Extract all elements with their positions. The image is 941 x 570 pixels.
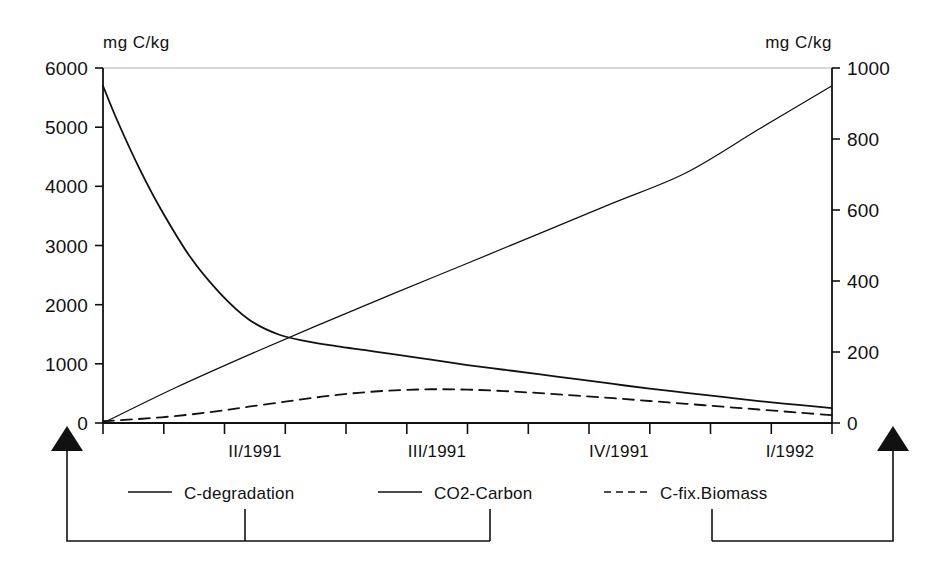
- xtick-label-q2-1991: II/1991: [228, 442, 281, 461]
- left-axis-unit-label: mg C/kg: [103, 33, 170, 52]
- right-axis-unit-label: mg C/kg: [765, 33, 832, 52]
- left-tick-label-2000: 2000: [45, 295, 88, 316]
- legend-item-co2-carbon[interactable]: CO2-Carbon: [378, 484, 532, 503]
- left-tick-label-6000: 6000: [45, 58, 88, 79]
- right-tick-label-1000: 1000: [847, 58, 890, 79]
- arrow-up-right-icon: [877, 426, 909, 451]
- right-tick-label-600: 600: [847, 200, 879, 221]
- left-tick-label-5000: 5000: [45, 117, 88, 138]
- xtick-label-q1-1992: I/1992: [766, 442, 814, 461]
- series-line-c-fix-biomass: [103, 389, 832, 421]
- left-tick-label-1000: 1000: [45, 354, 88, 375]
- left-tick-label-4000: 4000: [45, 176, 88, 197]
- series-line-c-degradation-main: [103, 86, 832, 408]
- left-tick-label-0: 0: [77, 413, 88, 434]
- legend-item-c-degradation[interactable]: C-degradation: [128, 484, 294, 503]
- series-line-co2-carbon: [103, 86, 832, 423]
- right-tick-label-200: 200: [847, 342, 879, 363]
- right-tick-label-0: 0: [847, 413, 858, 434]
- xtick-label-q3-1991: III/1991: [408, 442, 466, 461]
- xtick-label-q4-1991: IV/1991: [589, 442, 649, 461]
- legend-item-c-fix-biomass[interactable]: C-fix.Biomass: [604, 484, 767, 503]
- left-tick-label-3000: 3000: [45, 236, 88, 257]
- legend-label-c-fix-biomass: C-fix.Biomass: [660, 484, 767, 503]
- carbon-degradation-chart: mg C/kg mg C/kg 6000 5000 4000 3000 2000…: [0, 0, 941, 570]
- right-tick-label-400: 400: [847, 271, 879, 292]
- x-axis-ticks: [103, 423, 832, 434]
- legend-label-c-degradation: C-degradation: [184, 484, 294, 503]
- left-axis-ticks: [95, 68, 103, 423]
- right-tick-label-800: 800: [847, 129, 879, 150]
- legend-label-co2-carbon: CO2-Carbon: [434, 484, 532, 503]
- chart-figure: mg C/kg mg C/kg 6000 5000 4000 3000 2000…: [0, 0, 941, 570]
- right-axis-ticks: [832, 68, 840, 423]
